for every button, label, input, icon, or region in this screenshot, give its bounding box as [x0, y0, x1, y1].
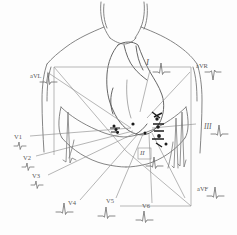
waveform-III [211, 125, 228, 137]
heart-outline [107, 42, 164, 135]
electrode-markers [110, 112, 168, 147]
lead-II-callout-box [138, 148, 151, 159]
ecg-lead-placement-diagram: I II III aVR aVL aVF V1 V2 V3 V4 V5 V6 [0, 0, 237, 235]
waveform-V3 [31, 181, 43, 189]
lead-waveform-glyphs [14, 63, 228, 223]
waveform-V4 [56, 203, 73, 215]
lead-vector-lines [30, 70, 196, 203]
waveform-V1 [14, 142, 26, 150]
waveform-V6 [136, 211, 153, 223]
waveform-V2 [22, 163, 34, 171]
waveform-I [153, 63, 170, 75]
waveform-V5 [98, 207, 115, 219]
chest-qrs-traces [63, 112, 186, 168]
waveform-aVR [205, 70, 221, 80]
diagram-canvas [0, 0, 237, 235]
waveform-aVF [207, 187, 224, 199]
